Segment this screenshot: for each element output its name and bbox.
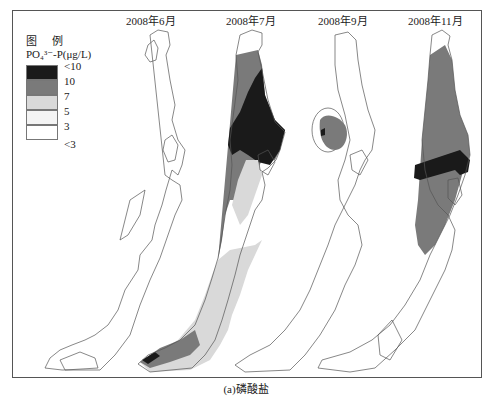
lake-maps xyxy=(0,0,492,396)
map-panel-jul xyxy=(138,30,285,372)
figure-caption: (a)磷酸盐 xyxy=(0,380,492,396)
map-panel-jun xyxy=(45,30,185,370)
